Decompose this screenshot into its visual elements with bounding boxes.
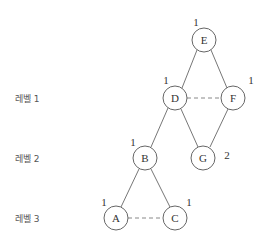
node-D: D 1 bbox=[163, 74, 187, 110]
graph-diagram: E 1 D 1 F 1 B 1 G 2 A 1 C 1 bbox=[0, 0, 268, 248]
node-D-number: 1 bbox=[163, 74, 169, 86]
node-F: F 1 bbox=[221, 74, 254, 110]
node-C-number: 1 bbox=[186, 196, 192, 208]
svg-text:B: B bbox=[141, 152, 148, 164]
node-A-number: 1 bbox=[101, 196, 107, 208]
edge-B-C bbox=[151, 169, 170, 207]
svg-text:E: E bbox=[201, 34, 208, 46]
edge-D-G bbox=[181, 109, 198, 147]
node-E-number: 1 bbox=[193, 16, 199, 28]
node-B-number: 1 bbox=[130, 136, 136, 148]
edge-E-D bbox=[182, 50, 197, 88]
node-G: G 2 bbox=[191, 146, 230, 170]
svg-text:F: F bbox=[230, 92, 236, 104]
edge-F-G bbox=[210, 109, 228, 147]
node-F-number: 1 bbox=[248, 74, 254, 86]
edge-E-F bbox=[211, 50, 227, 88]
svg-text:A: A bbox=[112, 212, 120, 224]
edge-D-B bbox=[151, 108, 168, 147]
svg-text:G: G bbox=[199, 152, 207, 164]
node-E: E 1 bbox=[192, 16, 216, 52]
svg-text:D: D bbox=[171, 92, 179, 104]
edge-B-A bbox=[121, 169, 139, 207]
svg-text:C: C bbox=[171, 212, 178, 224]
node-B: B 1 bbox=[130, 136, 157, 170]
node-G-number: 2 bbox=[224, 149, 230, 161]
